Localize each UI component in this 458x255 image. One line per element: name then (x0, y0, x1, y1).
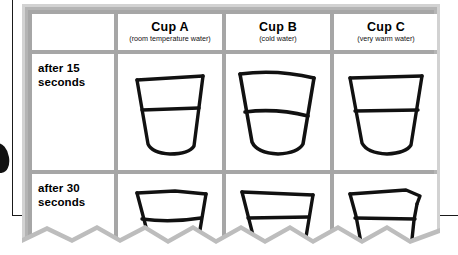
column-header-title: Cup C (367, 21, 405, 34)
cup-drawing-icon (334, 54, 438, 170)
column-header-cup-b: Cup B (cold water) (226, 14, 330, 50)
drawing-cell-row1-cup-b (226, 54, 330, 170)
observation-table: Cup A (room temperature water) Cup B (co… (22, 4, 440, 244)
cup-drawing-icon (334, 174, 438, 244)
row-header-after-30-seconds: after 30seconds (32, 174, 114, 244)
column-header-subtitle: (room temperature water) (129, 35, 210, 43)
column-header-cup-c: Cup C (very warm water) (334, 14, 438, 50)
column-header-subtitle: (very warm water) (357, 35, 415, 43)
cup-drawing-icon (226, 54, 330, 170)
row-header-line2: seconds (38, 76, 85, 88)
drawing-cell-row1-cup-c (334, 54, 438, 170)
page-tab-marker-icon (0, 142, 11, 174)
table-corner-cell (32, 14, 114, 50)
column-header-subtitle: (cold water) (259, 35, 297, 43)
row-header-line2: seconds (38, 196, 85, 208)
row-header-line1: after 15 (38, 62, 80, 74)
row-header-after-15-seconds: after 15seconds (32, 54, 114, 170)
drawing-cell-row2-cup-a (118, 174, 222, 244)
cup-drawing-icon (118, 174, 222, 244)
column-header-title: Cup A (151, 21, 188, 34)
column-header-cup-a: Cup A (room temperature water) (118, 14, 222, 50)
drawing-cell-row1-cup-a (118, 54, 222, 170)
table-grid: Cup A (room temperature water) Cup B (co… (28, 10, 434, 241)
cup-drawing-icon (226, 174, 330, 244)
row-header-line1: after 30 (38, 182, 80, 194)
column-header-title: Cup B (259, 21, 297, 34)
drawing-cell-row2-cup-c (334, 174, 438, 244)
drawing-cell-row2-cup-b (226, 174, 330, 244)
cup-drawing-icon (118, 54, 222, 170)
page-edge-left-rule (12, 0, 13, 216)
